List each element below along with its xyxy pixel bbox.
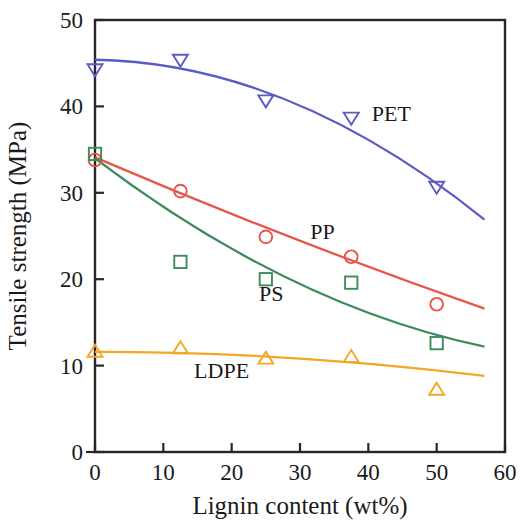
fit-curve-pp xyxy=(95,157,485,308)
axis-tick-labels: 010203040506001020304050 xyxy=(60,8,517,485)
x-tick-label: 10 xyxy=(152,460,175,485)
data-point-pet-3 xyxy=(344,113,359,125)
x-tick-label: 50 xyxy=(425,460,448,485)
data-point-ldpe-3 xyxy=(344,350,359,362)
x-tick-label: 30 xyxy=(289,460,312,485)
fit-curve-ps xyxy=(95,158,485,346)
axis-ticks xyxy=(86,20,505,452)
chart-figure: 010203040506001020304050 PETPPPSLDPE Lig… xyxy=(0,0,520,521)
data-point-ps-1 xyxy=(174,256,186,268)
x-axis-title: Lignin content (wt%) xyxy=(192,492,407,520)
data-point-ps-3 xyxy=(345,277,357,289)
x-tick-label: 40 xyxy=(357,460,380,485)
x-tick-label: 0 xyxy=(89,460,101,485)
fit-curve-pet xyxy=(95,60,485,220)
data-point-pet-2 xyxy=(258,95,273,107)
fit-curves xyxy=(95,60,485,376)
y-tick-label: 10 xyxy=(60,354,83,379)
y-axis-title: Tensile strength (MPa) xyxy=(4,122,32,351)
x-tick-label: 60 xyxy=(494,460,517,485)
y-tick-label: 40 xyxy=(60,94,83,119)
tensile-strength-chart: 010203040506001020304050 PETPPPSLDPE Lig… xyxy=(0,0,520,521)
data-point-pp-4 xyxy=(430,298,443,311)
plot-frame xyxy=(95,20,505,452)
series-label-pet: PET xyxy=(372,101,412,126)
data-point-ps-4 xyxy=(431,337,443,349)
data-point-ldpe-1 xyxy=(173,341,188,353)
y-tick-label: 30 xyxy=(60,181,83,206)
series-label-ldpe: LDPE xyxy=(194,358,249,383)
series-label-pp: PP xyxy=(310,219,334,244)
data-point-ldpe-4 xyxy=(429,383,444,395)
series-label-ps: PS xyxy=(259,281,283,306)
fit-curve-ldpe xyxy=(95,352,485,376)
x-tick-label: 20 xyxy=(220,460,243,485)
data-point-pet-1 xyxy=(173,55,188,67)
y-tick-label: 0 xyxy=(72,440,84,465)
data-point-pp-2 xyxy=(259,230,272,243)
y-tick-label: 50 xyxy=(60,8,83,33)
y-tick-label: 20 xyxy=(60,267,83,292)
